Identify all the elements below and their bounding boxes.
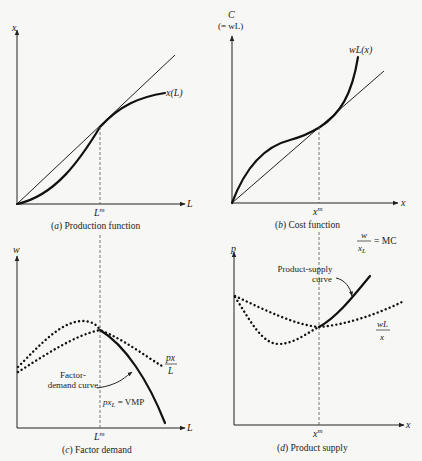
- apl-dotted-curve: [18, 330, 162, 372]
- caption: (d) Product supply: [277, 443, 348, 454]
- x-tick-label: Lm: [93, 430, 105, 442]
- y-axis-label: C: [228, 9, 235, 20]
- y-axis-sublabel: (= wL): [218, 21, 243, 31]
- mc-label: = MC: [374, 236, 397, 246]
- factor-demand-curve: [100, 330, 165, 423]
- ac-numerator: wL: [377, 319, 388, 329]
- apl-denominator: L: [167, 366, 173, 376]
- panel-c-factor-demand: w L px L Factor- demand curve pxL = VMP …: [13, 235, 193, 456]
- y-axis-label: x: [11, 22, 17, 33]
- cost-curve: [232, 57, 358, 203]
- x-tick-label: xm: [312, 205, 323, 217]
- vmp-rising-dotted: [18, 321, 100, 367]
- mc-numerator: w: [361, 230, 367, 240]
- curve-label: x(L): [165, 87, 183, 99]
- x-axis-label: L: [186, 422, 193, 433]
- production-curve: [17, 93, 165, 204]
- x-tick-label: Lm: [93, 206, 105, 218]
- caption: (a) Production function: [51, 221, 140, 232]
- caption: (b) Cost function: [275, 220, 340, 231]
- annotation-line1: Product-supply: [278, 264, 333, 274]
- x-axis-label: x: [405, 419, 411, 430]
- x-axis-label: L: [186, 198, 193, 209]
- mc-denominator: xL: [357, 243, 366, 255]
- annotation-arrow: [97, 372, 132, 388]
- annotation-arrow: [336, 278, 352, 296]
- average-product-ray: [17, 55, 175, 204]
- apl-numerator: px: [165, 353, 176, 363]
- mc-falling-dotted: [235, 297, 319, 344]
- annotation-line2: curve: [312, 274, 332, 284]
- caption: (c) Factor demand: [62, 445, 132, 456]
- vmp-label: pxL = VMP: [102, 397, 144, 409]
- curve-label: wL(x): [349, 44, 373, 56]
- ac-denominator: x: [379, 332, 384, 342]
- figure: x L x(L) Lm (a) Production function C (=…: [0, 0, 422, 461]
- panel-d-product-supply: p x w xL = MC wL x Product-supply curve …: [230, 230, 411, 454]
- x-axis-label: x: [400, 197, 406, 208]
- x-tick-label: xm: [312, 427, 323, 439]
- annotation-line2: demand curve: [48, 380, 99, 390]
- y-axis-label: p: [230, 243, 236, 254]
- y-axis-label: w: [13, 244, 20, 255]
- annotation-line1: Factor-: [60, 370, 86, 380]
- panel-b-cost-function: C (= wL) x wL(x) xm (b) Cost function: [218, 9, 406, 231]
- panel-a-production-function: x L x(L) Lm (a) Production function: [11, 22, 193, 232]
- average-cost-ray: [232, 71, 384, 203]
